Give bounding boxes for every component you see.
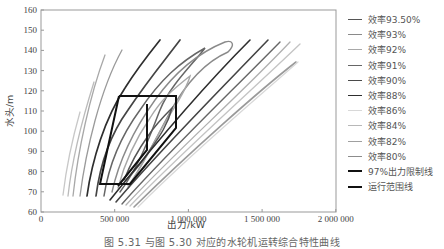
y-tick-label: 160 bbox=[24, 5, 38, 15]
legend-line-swatch bbox=[348, 125, 362, 126]
legend-label: 效率90% bbox=[368, 74, 406, 87]
x-tick-label: 2 000 000 bbox=[318, 214, 355, 224]
legend-label: 效率91% bbox=[368, 59, 406, 72]
legend-item: 效率82% bbox=[348, 134, 433, 149]
y-tick-label: 90 bbox=[28, 146, 38, 156]
legend-item: 效率88% bbox=[348, 88, 433, 103]
x-axis-title: 出力/kW bbox=[167, 219, 206, 230]
x-tick-label: 500 000 bbox=[100, 214, 130, 224]
legend-line-swatch bbox=[348, 186, 362, 188]
legend-line-swatch bbox=[348, 95, 362, 96]
legend-item: 效率90% bbox=[348, 73, 433, 88]
y-tick-label: 110 bbox=[24, 106, 38, 116]
x-tick-label: 1 500 000 bbox=[244, 214, 281, 224]
legend-item: 效率93% bbox=[348, 27, 433, 42]
legend-line-swatch bbox=[348, 65, 362, 66]
y-axis-break-label: 0 bbox=[39, 214, 44, 224]
legend-item: 效率84% bbox=[348, 118, 433, 133]
legend-item: 效率86% bbox=[348, 103, 433, 118]
legend-item: 运行范围线 bbox=[348, 179, 433, 194]
y-tick-label: 70 bbox=[28, 187, 38, 197]
y-tick-label: 60 bbox=[28, 207, 38, 217]
y-tick-label: 140 bbox=[24, 45, 38, 55]
legend-label: 效率84% bbox=[368, 119, 406, 132]
legend-item: 97%出力限制线 bbox=[348, 164, 433, 179]
legend-label: 效率93.50% bbox=[368, 13, 420, 26]
legend-line-swatch bbox=[348, 141, 362, 142]
legend-item: 效率93.50% bbox=[348, 12, 433, 27]
legend-line-swatch bbox=[348, 19, 362, 20]
y-tick-label: 150 bbox=[24, 25, 38, 35]
legend-line-swatch bbox=[348, 110, 362, 111]
legend-line-swatch bbox=[348, 49, 362, 50]
legend-item: 效率80% bbox=[348, 149, 433, 164]
legend-label: 效率86% bbox=[368, 104, 406, 117]
legend-line-swatch bbox=[348, 80, 362, 81]
y-tick-label: 80 bbox=[28, 167, 38, 177]
legend-line-swatch bbox=[348, 170, 362, 172]
x-axis: 500 0001 000 0001 500 0002 000 000 bbox=[100, 209, 354, 224]
y-tick-label: 120 bbox=[24, 86, 38, 96]
legend-line-swatch bbox=[348, 156, 362, 157]
legend-label: 效率80% bbox=[368, 150, 406, 163]
legend-line-swatch bbox=[348, 34, 362, 35]
efficiency-contours bbox=[63, 40, 300, 207]
legend-item: 效率92% bbox=[348, 42, 433, 57]
legend-item: 效率91% bbox=[348, 58, 433, 73]
y-tick-label: 100 bbox=[24, 126, 38, 136]
legend-label: 运行范围线 bbox=[368, 180, 413, 193]
y-tick-label: 130 bbox=[24, 66, 38, 76]
legend-label: 效率88% bbox=[368, 89, 406, 102]
y-axis-title: 水头/m bbox=[4, 95, 15, 127]
legend-label: 97%出力限制线 bbox=[368, 165, 433, 178]
legend-label: 效率92% bbox=[368, 43, 406, 56]
legend-label: 效率82% bbox=[368, 135, 406, 148]
legend-label: 效率93% bbox=[368, 28, 406, 41]
figure-caption: 图 5.31 与图 5.30 对应的水轮机运转综合特性曲线 bbox=[0, 234, 444, 249]
chart-legend: 效率93.50%效率93%效率92%效率91%效率90%效率88%效率86%效率… bbox=[348, 12, 433, 194]
